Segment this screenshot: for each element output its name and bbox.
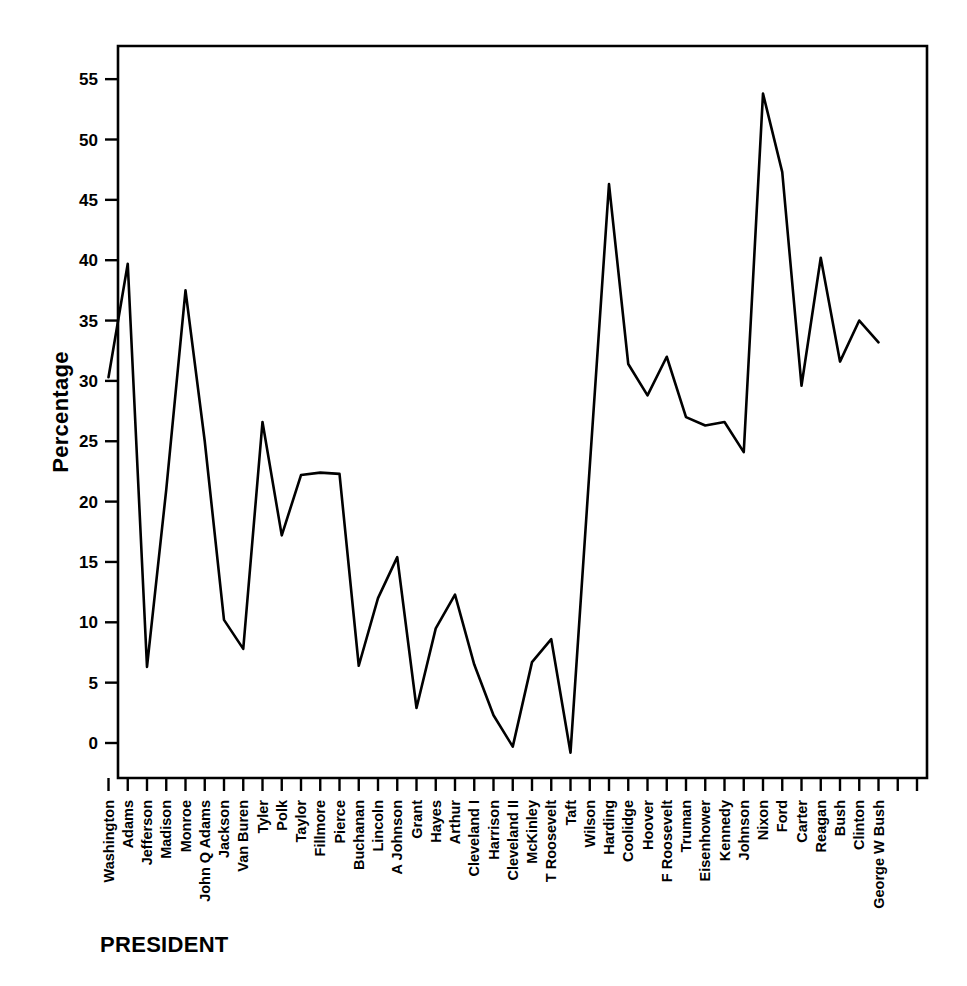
y-tick-label: 15 — [79, 553, 98, 572]
x-category-label: Monroe — [178, 800, 194, 852]
x-category-label: Madison — [158, 800, 174, 859]
data-series-line — [109, 94, 879, 753]
x-axis-tick-labels: WashingtonAdamsJeffersonMadisonMonroeJoh… — [101, 799, 887, 909]
y-tick-label: 45 — [79, 191, 98, 210]
x-category-label: A Johnson — [389, 800, 405, 874]
chart-container: 0510152025303540455055 WashingtonAdamsJe… — [0, 0, 967, 986]
y-tick-label: 25 — [79, 432, 98, 451]
y-tick-label: 5 — [89, 674, 98, 693]
x-category-label: Harrison — [486, 800, 502, 860]
x-category-label: Taylor — [293, 800, 309, 843]
x-category-label: Jefferson — [139, 800, 155, 865]
x-category-label: Tyler — [255, 800, 271, 834]
x-category-label: Ford — [774, 800, 790, 832]
x-category-label: Grant — [409, 800, 425, 839]
x-category-label: Hoover — [640, 800, 656, 850]
y-tick-label: 55 — [79, 70, 98, 89]
x-category-label: Hayes — [428, 800, 444, 843]
x-category-label: F Roosevelt — [659, 800, 675, 882]
x-category-label: George W Bush — [871, 800, 887, 909]
x-category-label: Polk — [274, 799, 290, 831]
y-tick-label: 20 — [79, 493, 98, 512]
x-category-label: Buchanan — [351, 800, 367, 870]
x-category-label: Clinton — [851, 800, 867, 850]
x-category-label: Pierce — [332, 800, 348, 844]
x-category-label: John Q Adams — [197, 800, 213, 902]
line-chart: 0510152025303540455055 WashingtonAdamsJe… — [0, 0, 967, 986]
x-category-label: Reagan — [813, 800, 829, 852]
y-tick-label: 40 — [79, 251, 98, 270]
x-category-label: Cleveland I — [466, 800, 482, 877]
y-tick-label: 10 — [79, 613, 98, 632]
x-category-label: Jackson — [216, 800, 232, 858]
y-tick-label: 50 — [79, 131, 98, 150]
x-category-label: Cleveland II — [505, 800, 521, 881]
x-category-label: Taft — [563, 800, 579, 826]
x-category-label: T Roosevelt — [543, 800, 559, 882]
y-axis-tick-labels: 0510152025303540455055 — [79, 70, 98, 753]
x-category-label: Fillmore — [312, 800, 328, 856]
y-tick-label: 35 — [79, 312, 98, 331]
x-category-label: Coolidge — [620, 800, 636, 862]
x-category-label: Bush — [832, 800, 848, 836]
x-category-label: Carter — [794, 800, 810, 843]
x-axis-title: PRESIDENT — [100, 932, 229, 957]
x-category-label: Truman — [678, 800, 694, 852]
x-category-label: Johnson — [736, 800, 752, 860]
y-tick-label: 30 — [79, 372, 98, 391]
y-axis-title: Percentage — [48, 351, 73, 473]
x-category-label: McKinley — [524, 800, 540, 864]
x-category-label: Kennedy — [717, 800, 733, 861]
x-category-label: Eisenhower — [697, 800, 713, 882]
x-category-label: Arthur — [447, 800, 463, 845]
x-category-label: Washington — [101, 800, 117, 882]
x-category-label: Wilson — [582, 800, 598, 847]
x-category-label: Harding — [601, 800, 617, 855]
x-category-label: Van Buren — [235, 800, 251, 872]
x-category-label: Nixon — [755, 800, 771, 840]
x-category-label: Adams — [120, 800, 136, 848]
plot-frame — [118, 46, 927, 778]
x-category-label: Lincoln — [370, 800, 386, 852]
x-axis-ticks — [109, 778, 918, 791]
y-axis-ticks — [105, 79, 118, 743]
y-tick-label: 0 — [89, 734, 98, 753]
